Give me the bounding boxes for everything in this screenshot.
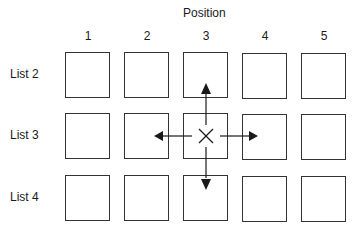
cross-marker-icon xyxy=(199,129,213,143)
arrows-overlay xyxy=(0,0,356,234)
